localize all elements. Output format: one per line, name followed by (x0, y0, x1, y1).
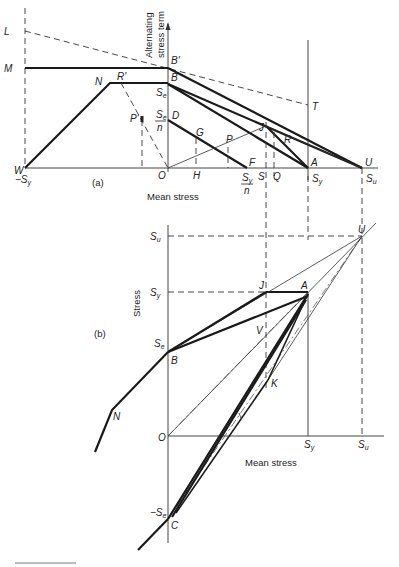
label-L: L (4, 26, 10, 37)
p-prime-marker (141, 116, 144, 122)
b-tick-x-Sy: Sy (304, 439, 315, 452)
label-G: G (196, 127, 204, 138)
label-M: M (4, 63, 13, 74)
label-H: H (193, 170, 201, 181)
b-line-B-J (168, 292, 266, 352)
label-U: U (365, 157, 373, 168)
label-B-prime: B' (171, 55, 181, 66)
figure-b: Su Sy Se B U J A V K N O C −Se Sy Su Str… (94, 223, 384, 550)
b-label-O: O (158, 432, 166, 443)
label-P-prime: P' (130, 113, 140, 124)
crossing-tick (239, 413, 241, 418)
tick-Se: Se (156, 87, 167, 99)
b-label-V: V (256, 325, 264, 336)
b-label-N: N (113, 411, 121, 422)
b-line-K-A (268, 294, 308, 380)
b-tick-Se: Se (154, 338, 165, 350)
label-R-prime: R' (117, 71, 127, 82)
label-J: J (258, 122, 265, 133)
tick-Su: Su (366, 173, 377, 185)
b-tick-x-Su: Su (358, 439, 369, 451)
label-A: A (310, 157, 318, 168)
line-W-N-B (25, 83, 168, 168)
b-label-J: J (258, 280, 265, 291)
b-tick-Su: Su (150, 231, 161, 243)
tick-Sy: Sy (312, 173, 323, 186)
b-tick-Sy: Sy (150, 287, 161, 300)
b-label-K: K (271, 378, 279, 389)
line-B-A (168, 84, 308, 168)
tick-Sy-over-n-num: Sy (242, 172, 253, 185)
label-F: F (249, 157, 256, 168)
b-line-B-A (168, 296, 308, 352)
label-N: N (95, 76, 103, 87)
label-P: P (226, 134, 233, 145)
line-D-F (168, 120, 247, 168)
b-line-C-A-2 (172, 300, 306, 517)
line-Bprime-U (168, 68, 362, 168)
b-label-A: A (300, 280, 308, 291)
b-tick-neg-Se: −Se (150, 507, 167, 519)
b-label-U: U (358, 224, 366, 235)
b-line-C-K (176, 380, 268, 513)
a-y-axis-label-line1: Alternating (143, 13, 154, 58)
label-O: O (158, 170, 166, 181)
fatigue-diagram: L M N R' B' B Se D Se n P' G P F J R T A… (0, 0, 399, 567)
b-label-C: C (171, 520, 179, 531)
a-x-axis-label: Mean stress (147, 191, 199, 202)
b-x-axis-label: Mean stress (245, 457, 297, 468)
b-line-C-tail (138, 519, 168, 550)
tick-Se-over-n-num: Se (156, 109, 167, 121)
label-Q: Q (273, 171, 281, 182)
label-B: B (171, 72, 178, 83)
arrow-up-icon (166, 22, 171, 30)
b-line-K-U (268, 236, 362, 380)
a-y-axis-label-line2: stress term (155, 11, 166, 58)
tick-Se-over-n-den: n (157, 122, 163, 133)
label-D: D (172, 110, 179, 121)
b-label-B: B (171, 355, 178, 366)
label-R: R (284, 134, 291, 145)
label-S: S (258, 171, 265, 182)
tick-neg-Sy: −Sy (15, 174, 32, 187)
tick-Sy-over-n-den: n (244, 185, 250, 196)
b-line-C-A-1 (168, 294, 308, 519)
b-y-axis-label: Stress (131, 290, 142, 317)
figure-a: L M N R' B' B Se D Se n P' G P F J R T A… (4, 8, 378, 436)
b-caption: (b) (94, 328, 106, 339)
label-T: T (312, 101, 319, 112)
a-caption: (a) (92, 177, 104, 188)
